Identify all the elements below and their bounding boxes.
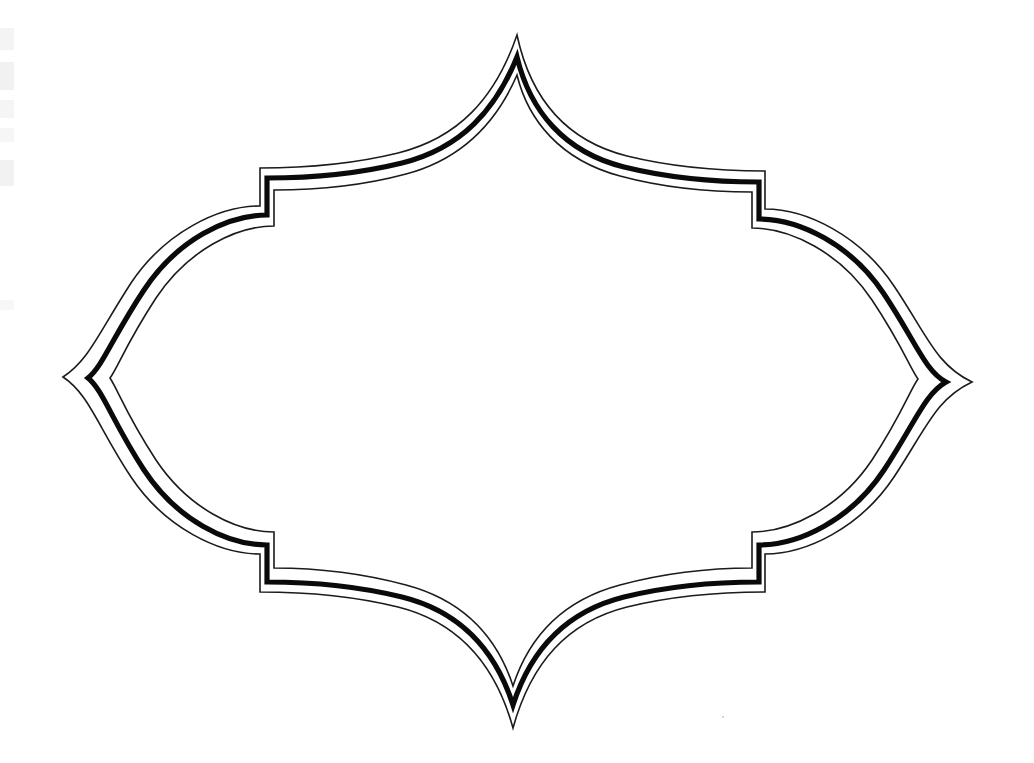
frame-interior — [110, 75, 918, 686]
scanned-page — [0, 0, 1034, 763]
decorative-frame — [0, 0, 1034, 763]
